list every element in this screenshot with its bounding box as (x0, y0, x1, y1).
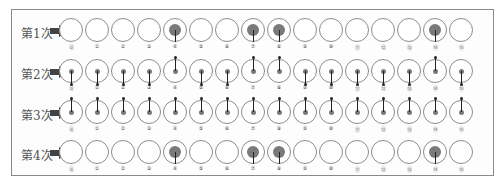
ring-icon (85, 18, 109, 42)
ring-icon (449, 18, 473, 42)
circle-cell-7: ⑦ (241, 11, 265, 51)
cell-number: ⑥ (215, 165, 239, 171)
circle-cell-13: ⑬ (397, 11, 421, 51)
needle-down-icon (123, 71, 124, 85)
ring-icon (111, 140, 135, 164)
cell-number: ⓪ (59, 84, 83, 91)
ring-icon (137, 140, 161, 164)
stem-icon (435, 152, 436, 164)
needle-up-icon (175, 98, 176, 112)
cell-number: ② (111, 43, 135, 49)
circle-cell-0: ⓪ (59, 133, 83, 173)
needle-up-icon (383, 98, 384, 112)
circle-cell-2: ② (111, 93, 135, 133)
cell-number: ⑬ (397, 165, 421, 172)
circle-cell-13: ⑬ (397, 133, 421, 173)
circle-cell-12: ⑫ (371, 93, 395, 133)
stem-icon (253, 152, 254, 164)
cell-number: ① (85, 43, 109, 49)
circle-cell-9: ⑨ (293, 93, 317, 133)
cell-number: ⑭ (423, 165, 447, 172)
needle-up-icon (435, 57, 436, 71)
circle-cell-1: ① (85, 133, 109, 173)
needle-down-icon (71, 71, 72, 85)
ring-icon (397, 140, 421, 164)
circle-cell-8: ⑧ (267, 52, 291, 92)
cell-number: ⑧ (267, 125, 291, 131)
cell-number: ② (111, 125, 135, 131)
circle-cell-15: ⑮ (449, 93, 473, 133)
circle-cell-0: ⓪ (59, 52, 83, 92)
ring-icon (111, 18, 135, 42)
circle-cell-15: ⑮ (449, 133, 473, 173)
cell-number: ⑪ (345, 43, 369, 50)
cell-number: ④ (163, 43, 187, 49)
row-4: 第4次⓪①②③④⑤⑥⑦⑧⑨⑩⑪⑫⑬⑭⑮ (0, 133, 501, 173)
circle-cell-11: ⑪ (345, 11, 369, 51)
needle-up-icon (357, 98, 358, 112)
row-1: 第1次⓪①②③④⑤⑥⑦⑧⑨⑩⑪⑫⑬⑭⑮ (0, 11, 501, 51)
ring-icon (345, 18, 369, 42)
cell-number: ⑩ (319, 165, 343, 171)
cell-number: ⑪ (345, 165, 369, 172)
circle-cell-1: ① (85, 93, 109, 133)
cell-number: ⑪ (345, 125, 369, 132)
circle-cell-12: ⑫ (371, 11, 395, 51)
circle-cell-6: ⑥ (215, 11, 239, 51)
cell-number: ⑬ (397, 125, 421, 132)
cell-number: ⑤ (189, 84, 213, 90)
cell-number: ⓪ (59, 165, 83, 172)
cell-number: ⑬ (397, 43, 421, 50)
stem-icon (175, 30, 176, 42)
circle-cell-3: ③ (137, 133, 161, 173)
needle-down-icon (331, 71, 332, 85)
needle-up-icon (253, 98, 254, 112)
cell-number: ⑧ (267, 165, 291, 171)
cell-number: ③ (137, 84, 161, 90)
needle-up-icon (97, 98, 98, 112)
cell-number: ⑧ (267, 43, 291, 49)
cell-number: ⑨ (293, 165, 317, 171)
ring-icon (189, 18, 213, 42)
cell-number: ④ (163, 165, 187, 171)
needle-down-icon (201, 71, 202, 85)
ring-icon (449, 140, 473, 164)
row-label: 第3次 (21, 106, 53, 123)
circle-cell-4: ④ (163, 52, 187, 92)
cell-number: ⑩ (319, 84, 343, 90)
cell-number: ⑦ (241, 43, 265, 49)
circle-cell-10: ⑩ (319, 133, 343, 173)
cell-number: ⑦ (241, 125, 265, 131)
row-label: 第2次 (21, 65, 53, 82)
cell-number: ⑥ (215, 84, 239, 90)
circle-cell-6: ⑥ (215, 52, 239, 92)
circle-cell-3: ③ (137, 11, 161, 51)
circle-cell-0: ⓪ (59, 93, 83, 133)
needle-down-icon (383, 71, 384, 85)
circle-cell-9: ⑨ (293, 133, 317, 173)
circle-cell-10: ⑩ (319, 93, 343, 133)
cell-number: ⓪ (59, 125, 83, 132)
cell-number: ⑤ (189, 165, 213, 171)
cell-number: ③ (137, 43, 161, 49)
circle-cell-7: ⑦ (241, 52, 265, 92)
cell-number: ⑫ (371, 125, 395, 132)
circle-cell-13: ⑬ (397, 93, 421, 133)
circle-cell-3: ③ (137, 93, 161, 133)
cell-number: ③ (137, 165, 161, 171)
circle-cell-3: ③ (137, 52, 161, 92)
row-label: 第4次 (21, 146, 53, 163)
cell-number: ⑫ (371, 84, 395, 91)
circle-cell-1: ① (85, 52, 109, 92)
cell-number: ⑨ (293, 84, 317, 90)
needle-down-icon (97, 71, 98, 85)
cell-number: ⑤ (189, 125, 213, 131)
needle-up-icon (435, 98, 436, 112)
row-label: 第1次 (21, 24, 53, 41)
circle-cell-4: ④ (163, 11, 187, 51)
circle-cell-7: ⑦ (241, 93, 265, 133)
needle-down-icon (409, 71, 410, 85)
cell-number: ⑪ (345, 84, 369, 91)
needle-up-icon (279, 98, 280, 112)
cell-number: ⑤ (189, 43, 213, 49)
